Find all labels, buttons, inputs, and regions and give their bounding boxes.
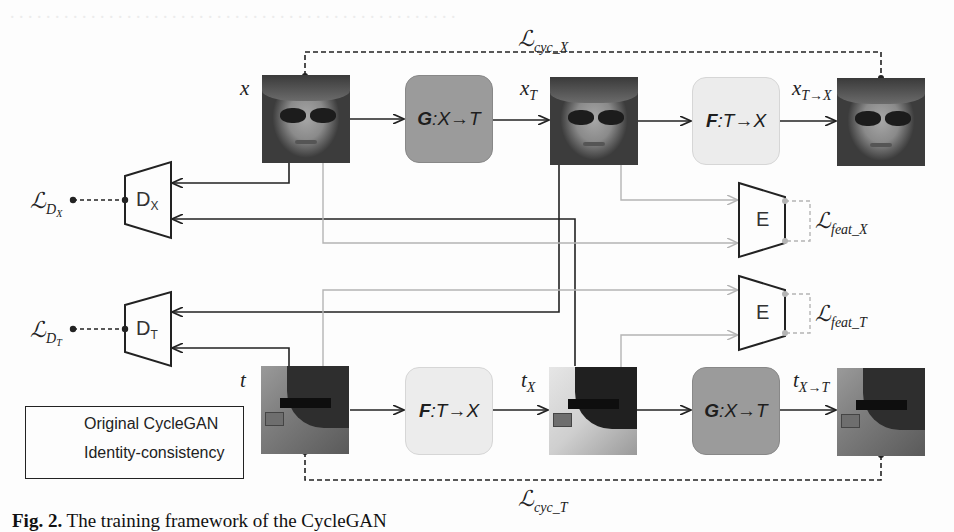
label-t-x: tX [521,370,535,395]
generator-f-top: F:T→X [692,77,780,165]
label-t: t [240,370,246,391]
cycle-loss-x-line [305,52,881,78]
label-x-t-to-x: xT→X [792,78,832,103]
encoder-et-label: E [756,301,769,324]
discriminator-loss-dt: ℒDT [30,319,62,348]
discriminator-dx-label: DX [136,188,158,213]
legend-item-identity-consistency: Identity-consistency [84,444,225,462]
image-t-x-to-t [837,368,925,456]
feature-loss-x: ℒfeat_X [815,210,868,237]
image-x-t-face [550,77,638,165]
cycle-loss-x-label: ℒcyc_X [518,28,568,55]
cycle-loss-t-line [305,452,881,480]
figure-caption: Fig. 2. The training framework of the Cy… [12,510,387,532]
cycle-loss-t-label: ℒcyc_T [518,488,567,515]
image-x-t-to-x-face [837,78,925,166]
discriminator-dt-label: DT [136,317,158,342]
legend-item-original-cyclegan: Original CycleGAN [84,415,218,433]
label-t-x-to-t: tX→T [793,370,829,395]
feature-loss-t: ℒfeat_T [815,303,867,330]
label-x-t: xT [520,78,537,103]
image-t-x [549,367,637,455]
image-t-target [261,366,349,454]
label-x: x [240,78,249,99]
legend: Original CycleGAN Identity-consistency [25,406,244,479]
generator-g-top: G:X→T [405,75,493,163]
generator-g-bottom: G:X→T [692,367,780,455]
cyclegan-framework-diagram: . . . . . . . . . . . . . . . . . . . . … [0,0,954,532]
discriminator-loss-dx: ℒDX [30,190,62,219]
encoder-ex-label: E [756,208,769,231]
generator-f-bottom: F:T→X [405,367,493,455]
image-x-face [262,75,350,163]
